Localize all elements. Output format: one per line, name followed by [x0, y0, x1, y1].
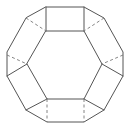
hidden-edge-upper-right — [84, 18, 104, 31]
upper-right-edge — [102, 64, 123, 76]
lower-left-edge — [26, 99, 47, 110]
lower-right-edge — [84, 99, 104, 110]
hidden-edge-right — [102, 55, 123, 64]
upper-left-edge — [7, 64, 27, 76]
hidden-edge-left — [7, 55, 27, 64]
hidden-edge-upper-left — [26, 18, 46, 31]
outer-outline — [7, 7, 123, 122]
inner-hexagon-face — [27, 31, 102, 99]
polyhedron-diagram — [0, 0, 133, 130]
